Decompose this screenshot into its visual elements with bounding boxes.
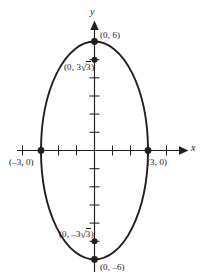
- radical-glyph: √: [81, 229, 87, 240]
- label-upper-focus: (0, 3√3): [64, 62, 94, 72]
- radical-symbol: √3: [81, 229, 91, 239]
- label-bottom-vertex: (0, –6): [100, 263, 125, 272]
- label-upper-focus-suffix: ): [91, 62, 94, 72]
- point-left-vertex: [38, 147, 45, 154]
- label-lower-focus: (0, –3√3): [59, 229, 94, 239]
- point-bottom-vertex: [91, 256, 98, 263]
- y-axis-label: y: [90, 7, 94, 17]
- label-right-vertex: (3, 0): [147, 158, 167, 167]
- point-top-vertex: [91, 38, 98, 45]
- radical-glyph: √: [81, 62, 87, 73]
- ellipse-figure: y x (0, 6) (0, 3√3) (3, 0) (–3, 0) (0, –…: [0, 0, 200, 275]
- x-axis-label: x: [191, 143, 195, 153]
- y-axis-arrowhead: [90, 21, 98, 31]
- graph-canvas: [0, 0, 200, 275]
- point-lower-focus: [92, 238, 98, 244]
- label-lower-focus-suffix: ): [91, 229, 94, 239]
- label-lower-focus-prefix: (0, –3: [59, 229, 81, 239]
- radical-symbol: √3: [81, 62, 91, 72]
- x-axis-arrowhead: [179, 146, 189, 154]
- label-left-vertex: (–3, 0): [9, 158, 34, 167]
- label-upper-focus-prefix: (0, 3: [64, 62, 81, 72]
- label-top-vertex: (0, 6): [100, 31, 120, 40]
- label-lower-focus-radicand: 3: [86, 228, 91, 239]
- point-right-vertex: [145, 147, 152, 154]
